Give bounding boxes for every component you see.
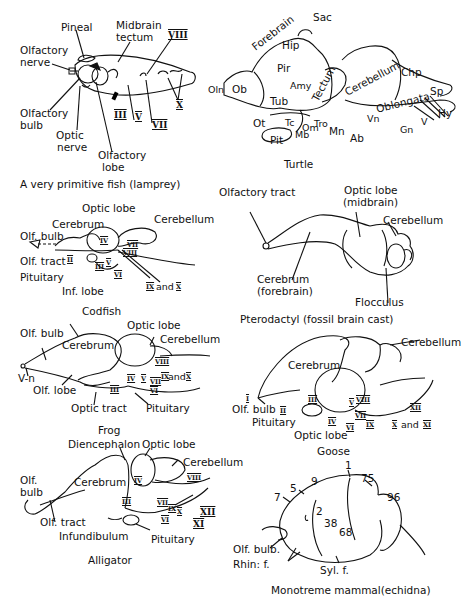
label-cn-v: V	[106, 258, 111, 269]
label-pit: Pit	[270, 135, 283, 146]
label-cn-ix: IX	[146, 282, 154, 293]
label-cn-x: X	[176, 100, 183, 111]
label-cn-viii: VIII	[356, 395, 370, 406]
label-optic-nerve: Optic	[56, 130, 84, 141]
label-pituitary: Pituitary	[146, 403, 190, 414]
label-cn-xii: XII	[200, 507, 215, 518]
label-pineal: Pineal	[61, 22, 93, 33]
label-cn-iii: III	[114, 110, 127, 121]
label-cn-iii: III	[122, 497, 131, 508]
caption-pterodactyl: Pterodactyl (fossil brain cast)	[240, 313, 393, 325]
label-cerebrum-2: (forebrain)	[257, 286, 313, 297]
caption-turtle: Turtle	[284, 158, 313, 170]
label-mn: Mn	[329, 126, 345, 137]
label-cn-x: X	[176, 282, 181, 293]
label-vn: Vn	[367, 113, 380, 124]
label-mb: Mb	[295, 129, 309, 140]
label-cn-xi: XI	[423, 420, 431, 431]
label-olfactory-tract: Olfactory tract	[219, 187, 295, 198]
label-olf-lobe: Olf. lobe	[33, 385, 76, 396]
label-cerebellum: Cerebellum	[383, 215, 443, 226]
label-cn-and: and	[168, 371, 186, 382]
label-v: V	[421, 116, 428, 127]
label-cn-viii: VIII	[123, 248, 137, 259]
label-cn-xi: XI	[193, 519, 204, 530]
label-cn-iii: III	[95, 262, 104, 273]
label-optic-lobe: Optic lobe	[344, 185, 398, 196]
label-cn-viii: VIII	[168, 30, 188, 41]
caption-goose: Goose	[317, 445, 350, 457]
label-cn-vii: VII	[150, 377, 161, 388]
label-ot: Ot	[253, 118, 265, 129]
label-flocculus: Flocculus	[355, 297, 404, 308]
label-amy: Amy	[290, 80, 311, 91]
label-area-68: 68	[339, 527, 352, 538]
label-optic-tract: Optic tract	[71, 403, 127, 414]
label-tc: Tc	[285, 117, 294, 128]
label-olf-bulb: Olf. bulb	[20, 231, 64, 242]
label-optic-lobe: Optic lobe	[142, 439, 196, 450]
label-diencephalon: Diencephalon	[68, 439, 140, 450]
label-optic-lobe: Optic lobe	[82, 203, 136, 214]
label-ob: Ob	[232, 84, 247, 95]
label-cn-vi: VI	[114, 270, 122, 281]
label-olf-tract: Olf. tract	[20, 256, 66, 267]
label-optic-nerve-2: nerve	[57, 142, 87, 153]
label-olf-bulb: Olf.	[20, 475, 37, 486]
label-olfactory-lobe: Olfactory	[98, 150, 146, 161]
label-hy: Hy	[438, 108, 452, 119]
label-tub: Tub	[270, 96, 288, 107]
label-cn-ii: II	[67, 255, 73, 266]
label-cn-x: X	[186, 372, 191, 383]
label-cn-ix: IX	[168, 504, 176, 515]
label-cerebellum: Cerebellum	[154, 214, 214, 225]
label-olf-bulb: Olf. bulb.	[233, 544, 280, 555]
label-tro: Tro	[314, 118, 328, 129]
label-pituitary: Pituitary	[151, 534, 195, 545]
label-cn-and: and	[156, 281, 174, 292]
label-cerebellum: Cerebellum	[160, 334, 220, 345]
label-cn-and: and	[401, 419, 419, 430]
label-ab: Ab	[350, 133, 364, 144]
caption-codfish: Codfish	[82, 305, 121, 317]
label-pir: Pir	[277, 63, 290, 74]
label-area-38: 38	[324, 518, 337, 529]
label-area-75: 75	[361, 473, 374, 484]
label-inf-lobe: Inf. lobe	[62, 286, 104, 297]
label-cerebrum: Cerebrum	[257, 274, 309, 285]
label-area-9: 9	[311, 476, 318, 487]
caption-echidna: Monotreme mammal(echidna)	[271, 584, 430, 596]
label-sac: Sac	[313, 12, 332, 23]
label-area-7: 7	[274, 492, 281, 503]
label-cn-x: X	[392, 420, 397, 431]
label-cerebellum: Cerebellum	[401, 337, 461, 348]
label-cn-v: V	[141, 374, 146, 385]
label-oln: Oln	[208, 84, 224, 95]
label-cn-viii: VIII	[155, 357, 169, 368]
label-cn-vi: VI	[161, 515, 169, 526]
label-optic-lobe: Optic lobe	[294, 430, 348, 441]
label-cerebellum: Cerebellum	[183, 457, 243, 468]
label-olfactory-nerve: Olfactory	[20, 45, 68, 56]
label-optic-lobe: Optic lobe	[127, 320, 181, 331]
label-area-5: 5	[290, 483, 297, 494]
label-olfactory-nerve-2: nerve	[20, 57, 50, 68]
label-hip: Hip	[282, 40, 299, 51]
label-olf-bulb: Olf. bulb	[20, 328, 64, 339]
label-olf-bulb-2: bulb	[20, 487, 43, 498]
label-cn-x: X	[177, 507, 182, 518]
label-olf-bulb: Olf. bulb	[232, 404, 276, 415]
label-pituitary: Pituitary	[252, 417, 296, 428]
echidna-brain-drawing	[262, 470, 425, 563]
label-cn-viii: VIII	[187, 473, 201, 484]
label-olf-tract: Olf. tract	[40, 517, 86, 528]
label-olfactory-bulb-2: bulb	[20, 120, 43, 131]
label-cn-iii: III	[110, 385, 119, 396]
caption-lamprey: A very primitive fish (lamprey)	[20, 178, 180, 190]
label-cn-vii: VII	[157, 498, 168, 509]
label-cerebrum: Cerebrum	[62, 340, 114, 351]
label-cn-ii: II	[280, 406, 286, 417]
label-cn-iv: IV	[134, 476, 142, 487]
label-rhin-f: Rhin: f.	[233, 559, 270, 570]
label-cerebrum: Cerebrum	[288, 360, 340, 371]
